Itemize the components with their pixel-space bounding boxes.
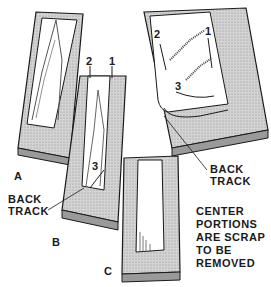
back-track-right-line2: TRACK — [210, 175, 251, 187]
note-line3: ARE SCRAP — [196, 231, 265, 244]
note-line1: CENTER — [196, 205, 265, 218]
step-2-label-b: 2 — [86, 55, 92, 67]
panel-label-b: B — [52, 236, 60, 248]
panel-label-c: C — [104, 265, 112, 277]
scrap-note: CENTER PORTIONS ARE SCRAP TO BE REMOVED — [196, 205, 265, 270]
back-track-right-label: BACK TRACK — [210, 163, 251, 187]
back-track-right-line1: BACK — [210, 163, 251, 175]
step-1-label-b: 1 — [109, 55, 115, 67]
note-line4: TO BE — [196, 244, 265, 257]
step-3-label-d: 3 — [175, 80, 181, 92]
panel-c-board — [122, 156, 180, 282]
step-3-label-b: 3 — [92, 160, 98, 172]
back-track-left-label: BACK TRACK — [8, 193, 49, 217]
note-line2: PORTIONS — [196, 218, 265, 231]
step-1-label-d: 1 — [205, 25, 211, 37]
panel-label-a: A — [14, 170, 22, 182]
step-2-label-d: 2 — [154, 28, 160, 40]
back-track-left-line2: TRACK — [8, 205, 49, 217]
back-track-left-line1: BACK — [8, 193, 49, 205]
note-line5: REMOVED — [196, 257, 265, 270]
